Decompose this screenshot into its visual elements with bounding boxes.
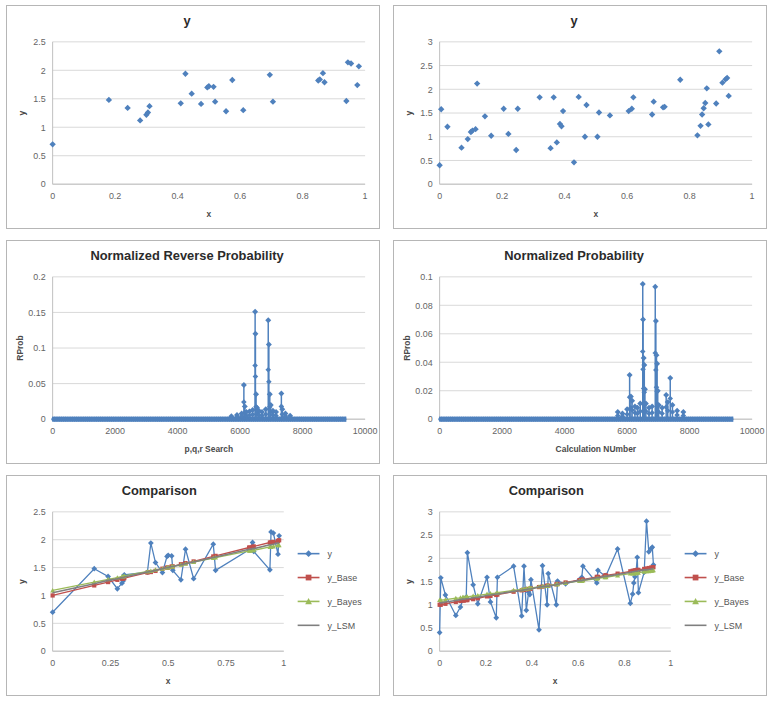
chart-panel-comparison-left[interactable]: Comparison00.511.522.500.250.50.751xyyy_… (6, 475, 380, 696)
series-y (49, 59, 362, 147)
x-tick-label: 4000 (168, 426, 188, 436)
data-marker-diamond (692, 550, 699, 557)
data-marker-diamond (253, 374, 259, 380)
y-tick-label: 0 (41, 414, 46, 424)
legend-label: y_Base (714, 573, 744, 583)
legend-item-y_LSM[interactable]: y_LSM (685, 621, 743, 631)
data-marker-diamond (276, 533, 282, 539)
data-marker-diamond (544, 602, 550, 608)
plot-area (438, 281, 733, 422)
data-marker-diamond (146, 103, 152, 109)
chart-title: Comparison (509, 483, 584, 498)
data-marker-square (51, 593, 55, 597)
gridlines (53, 42, 365, 184)
x-tick-label: 0.5 (162, 658, 174, 668)
chart-title: Normalized Probability (504, 248, 644, 263)
data-marker-diamond (630, 591, 636, 597)
y-tick-label: 2 (428, 554, 433, 564)
y-tick-label: 2.5 (33, 37, 45, 47)
data-marker-diamond (505, 131, 511, 137)
data-marker-diamond (183, 546, 189, 552)
chart-panel-scatter-y-right[interactable]: y00.511.522.5300.20.40.60.81xy (393, 5, 767, 229)
y-axis-title: RProb (402, 335, 412, 360)
x-tick-label: 2000 (492, 426, 512, 436)
data-marker-diamond (515, 106, 521, 112)
data-marker-diamond (652, 284, 658, 290)
data-marker-diamond (305, 550, 312, 557)
y-tick-label: 3 (428, 37, 433, 47)
data-marker-diamond (191, 576, 197, 582)
data-marker-diamond (594, 134, 600, 140)
data-marker-diamond (596, 109, 602, 115)
chart-cell-0: y00.511.522.500.20.40.60.81xy (0, 0, 387, 235)
data-marker-diamond (523, 607, 529, 613)
legend-item-y_Bayes[interactable]: y_Bayes (685, 597, 750, 607)
legend-item-y_Base[interactable]: y_Base (685, 573, 745, 583)
data-marker-diamond (241, 399, 247, 405)
x-tick-label: 8000 (680, 426, 700, 436)
y-tick-label: 0.5 (33, 151, 45, 161)
data-marker-diamond (554, 139, 560, 145)
x-tick-label: 0.2 (496, 191, 508, 201)
plot-area (436, 48, 731, 168)
y-tick-label: 2.5 (420, 61, 432, 71)
data-marker-diamond (627, 600, 633, 606)
data-marker-diamond (252, 331, 258, 337)
legend-item-y_Base[interactable]: y_Base (298, 573, 358, 583)
data-marker-diamond (148, 540, 154, 546)
x-axis-title: x (207, 209, 212, 219)
series-line (53, 532, 280, 612)
data-marker-diamond (540, 563, 546, 569)
data-marker-diamond (630, 94, 636, 100)
data-marker-diamond (667, 375, 673, 381)
legend-item-y[interactable]: y (298, 549, 333, 559)
legend-item-y_LSM[interactable]: y_LSM (298, 621, 356, 631)
data-marker-diamond (267, 72, 273, 78)
data-marker-diamond (253, 391, 259, 397)
data-marker-diamond (354, 82, 360, 88)
data-marker-square (277, 538, 281, 542)
x-tick-label: 0 (437, 191, 442, 201)
data-marker-diamond (49, 141, 55, 147)
x-tick-label: 0.2 (480, 658, 492, 668)
data-marker-diamond (641, 355, 647, 361)
y-tick-label: 0.1 (420, 272, 432, 282)
data-marker-diamond (229, 77, 235, 83)
legend-label: y (714, 549, 719, 559)
chart-panel-normalized-probability[interactable]: Normalized Probability00.020.040.060.080… (393, 240, 767, 464)
data-marker-diamond (275, 551, 281, 557)
plot-area (437, 518, 657, 635)
x-tick-label: 10000 (740, 426, 765, 436)
chart-panel-scatter-y-left[interactable]: y00.511.522.500.20.40.60.81xy (6, 5, 380, 229)
y-tick-label: 0 (428, 179, 433, 189)
data-marker-diamond (488, 133, 494, 139)
y-tick-label: 0.5 (420, 623, 432, 633)
data-marker-diamond (320, 70, 326, 76)
data-marker-diamond (210, 541, 216, 547)
data-marker-diamond (651, 98, 657, 104)
data-marker-diamond (464, 550, 470, 556)
data-marker-diamond (278, 391, 284, 397)
data-marker-diamond (545, 571, 551, 577)
legend-item-y[interactable]: y (685, 549, 720, 559)
y-tick-label: 0.05 (28, 379, 45, 389)
chart-svg-1: y00.511.522.5300.20.40.60.81xy (394, 6, 766, 228)
chart-panel-comparison-right[interactable]: Comparison00.511.522.5300.20.40.60.81xyy… (393, 475, 767, 696)
x-tick-label: 0.6 (234, 191, 246, 201)
y-axis-title: RProb (15, 335, 25, 360)
data-marker-diamond (438, 575, 444, 581)
data-marker-diamond (240, 107, 246, 113)
legend-item-y_Bayes[interactable]: y_Bayes (298, 597, 363, 607)
data-marker-diamond (636, 590, 642, 596)
y-tick-label: 1 (41, 591, 46, 601)
x-tick-label: 4000 (555, 426, 575, 436)
x-tick-label: 0.25 (102, 658, 119, 668)
x-tick-label: 6000 (617, 426, 637, 436)
chart-title: Comparison (122, 483, 197, 498)
series-y (50, 529, 282, 615)
x-tick-label: 0.8 (618, 658, 630, 668)
data-marker-diamond (634, 554, 640, 560)
y-tick-label: 0 (428, 414, 433, 424)
chart-panel-normalized-reverse-probability[interactable]: Normalized Reverse Probability00.050.10.… (6, 240, 380, 464)
x-tick-label: 1 (668, 658, 673, 668)
